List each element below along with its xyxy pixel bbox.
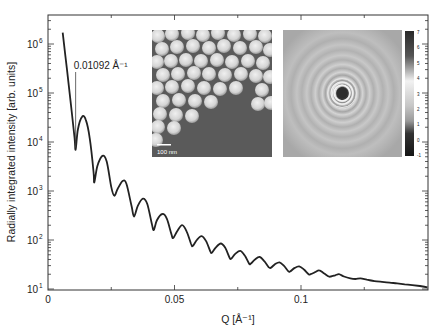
colorbar-ticks: 76543210-1: [417, 30, 421, 158]
colorbar-tick-label: 1: [417, 122, 420, 127]
x-tick-label: 0: [45, 294, 51, 305]
y-tick-label: 10: [27, 284, 39, 295]
scale-bar-label: 100 nm: [157, 149, 177, 155]
colorbar-tick-label: 3: [417, 92, 420, 97]
y-tick-exponent: 4: [39, 135, 43, 142]
y-tick-exponent: 3: [39, 184, 43, 191]
colorbar-tick-label: 6: [417, 45, 420, 50]
y-tick-label: 10: [27, 137, 39, 148]
x-axis-label: Q [Å⁻¹]: [221, 313, 255, 325]
saxs-pattern-inset: 76543210-1: [283, 30, 421, 158]
y-tick-label: 10: [27, 39, 39, 50]
y-tick-labels: 101102103104105106: [27, 37, 43, 295]
minimum-annotation: 0.01092 Å⁻¹: [74, 59, 129, 148]
y-tick-exponent: 6: [39, 37, 43, 44]
colorbar-tick-label: 4: [417, 76, 420, 81]
colorbar-tick-label: 5: [417, 61, 420, 66]
y-axis-label: Radially integrated intensity [arb. unit…: [5, 62, 17, 242]
x-tick-label: 0.1: [294, 294, 308, 305]
tem-inset: 100 nm: [149, 26, 278, 157]
y-tick-exponent: 1: [39, 282, 43, 289]
colorbar-tick-label: 7: [417, 30, 420, 35]
colorbar-tick-label: 0: [417, 138, 420, 143]
y-tick-exponent: 2: [39, 233, 43, 240]
colorbar-tick-label: 2: [417, 107, 420, 112]
y-tick-label: 10: [27, 88, 39, 99]
y-tick-label: 10: [27, 235, 39, 246]
x-tick-label: 0.05: [165, 294, 185, 305]
y-tick-label: 10: [27, 186, 39, 197]
saxs-intensity-chart: 100 nm 76543210-1 0.01092 Å⁻¹ 00.050.1 1…: [0, 0, 441, 335]
annotation-label: 0.01092 Å⁻¹: [74, 59, 129, 71]
colorbar: [405, 31, 414, 156]
y-tick-exponent: 5: [39, 86, 43, 93]
x-tick-labels: 00.050.1: [45, 294, 308, 305]
colorbar-tick-label: -1: [417, 153, 421, 158]
